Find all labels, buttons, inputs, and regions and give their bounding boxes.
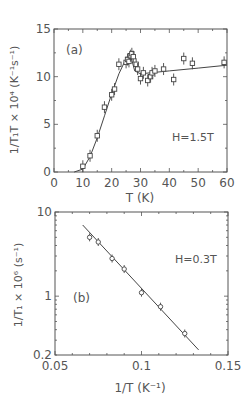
data-point: [182, 56, 186, 60]
panel-b-label: (b): [73, 291, 90, 305]
data-point: [138, 76, 142, 80]
panel-a-label: (a): [66, 43, 83, 57]
x-tick-label: 30: [133, 176, 148, 190]
panel-a-data-points: [81, 48, 227, 172]
y-tick-label: 5: [43, 117, 51, 131]
data-point: [190, 61, 194, 65]
x-tick-label: 0: [50, 176, 58, 190]
panel-b-x-axis-label: 1/T (K⁻¹): [114, 381, 165, 395]
data-point: [183, 331, 187, 335]
data-point: [135, 67, 139, 71]
data-point: [139, 290, 143, 294]
panel-b-plot-frame: [55, 212, 228, 355]
x-tick-label: 10: [75, 176, 90, 190]
x-tick-label: 60: [219, 176, 234, 190]
panel-a-field-annotation: H=1.5T: [172, 131, 214, 144]
data-point: [122, 267, 126, 271]
panel-a-y-axis-label: 1/T₁T × 10⁴ (K⁻¹s⁻¹): [8, 46, 21, 155]
x-tick-label: 0.1: [132, 359, 151, 373]
data-point: [112, 87, 116, 91]
panel-b-chart: 0.050.10.150.2110 (b) H=0.3T 1/T (K⁻¹) 1…: [12, 205, 241, 395]
y-tick-label: 0.2: [33, 348, 52, 362]
data-point: [222, 60, 226, 64]
y-tick-label: 15: [36, 22, 51, 36]
x-tick-label: 0.15: [215, 359, 242, 373]
y-tick-label: 0: [43, 165, 51, 179]
data-point: [171, 77, 175, 81]
x-tick-label: 20: [104, 176, 119, 190]
data-point: [102, 105, 106, 109]
data-point: [96, 240, 100, 244]
x-tick-label: 40: [162, 176, 177, 190]
data-point: [158, 304, 162, 308]
data-point: [117, 62, 121, 66]
data-point: [87, 235, 91, 239]
data-point: [153, 69, 157, 73]
y-tick-label: 10: [36, 70, 51, 84]
data-point: [95, 134, 99, 138]
y-tick-label: 1: [44, 289, 52, 303]
y-tick-label: 10: [37, 205, 52, 219]
data-point: [109, 93, 113, 97]
panel-a-chart: 0102030405060051015 (a) H=1.5T T (K) 1/T…: [8, 22, 235, 205]
data-point: [141, 71, 145, 75]
figure: 0102030405060051015 (a) H=1.5T T (K) 1/T…: [0, 0, 252, 413]
data-point: [161, 67, 165, 71]
data-point: [88, 154, 92, 158]
panel-b-field-annotation: H=0.3T: [175, 253, 217, 266]
panel-a-x-axis-label: T (K): [125, 191, 154, 205]
panel-b-y-axis-label: 1/T₁ × 10⁶ (s⁻¹): [12, 243, 25, 327]
x-tick-label: 50: [191, 176, 206, 190]
data-point: [110, 256, 114, 260]
panel-b-ticks: [55, 212, 228, 355]
data-point: [131, 54, 135, 58]
panel-b-tick-labels: 0.050.10.150.2110: [33, 205, 241, 373]
data-point: [81, 164, 85, 168]
